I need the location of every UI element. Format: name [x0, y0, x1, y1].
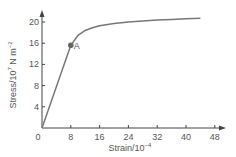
- y-tick-label: 16: [29, 38, 39, 48]
- y-tick-label: 12: [29, 59, 39, 69]
- y-tick-label: 20: [29, 17, 39, 27]
- point-a-label: A: [74, 41, 80, 51]
- x-tick-label: 32: [152, 132, 162, 142]
- x-tick-label: 8: [68, 132, 73, 142]
- y-ticks: 48121620: [29, 17, 45, 112]
- y-tick-label: 4: [34, 102, 39, 112]
- y-axis-label: Stress/107 N m−2: [7, 41, 18, 109]
- axes: [40, 10, 227, 131]
- point-a-marker: [68, 43, 74, 49]
- x-tick-label: 24: [123, 132, 133, 142]
- x-tick-label: 48: [210, 132, 220, 142]
- stress-strain-chart: 081624324048 48121620 A Strain/10−4 Stre…: [0, 0, 236, 157]
- y-tick-label: 8: [34, 81, 39, 91]
- y-axis-arrow-icon: [40, 10, 45, 17]
- stress-strain-curve: [42, 18, 200, 128]
- x-axis-label: Strain/10−4: [109, 142, 153, 153]
- x-tick-label: 40: [181, 132, 191, 142]
- x-axis-arrow-icon: [219, 126, 226, 131]
- x-tick-label: 16: [95, 132, 105, 142]
- x-tick-label: 0: [35, 132, 40, 142]
